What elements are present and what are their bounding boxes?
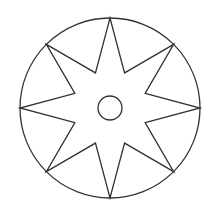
- center-circle: [98, 96, 122, 120]
- star-in-circle-diagram: [0, 0, 217, 207]
- diagram-canvas: [0, 0, 217, 207]
- eight-pointed-star: [20, 18, 200, 198]
